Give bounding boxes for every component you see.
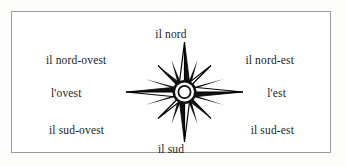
diagram-frame: il nord il nord-ovest il nord-est l'oves…: [11, 11, 331, 153]
direction-label-south: il sud: [12, 143, 330, 156]
direction-label-northeast: il nord-est: [245, 54, 294, 67]
direction-label-east: l'est: [267, 87, 286, 100]
direction-label-southwest: il sud-ovest: [49, 124, 104, 137]
compass-rose-icon: [125, 40, 244, 144]
direction-label-southeast: il sud-est: [251, 124, 294, 137]
direction-label-west: l'ovest: [51, 87, 82, 100]
compass-diagram-page: il nord il nord-ovest il nord-est l'oves…: [0, 0, 345, 166]
direction-label-northwest: il nord-ovest: [46, 54, 106, 67]
